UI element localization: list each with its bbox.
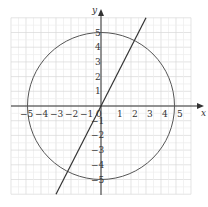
x-tick-label: 5 [177,109,183,119]
y-tick-label: 2 [95,72,101,82]
y-axis-label: y [91,5,98,15]
x-tick-label: 4 [162,109,168,119]
x-tick-label: −5 [20,109,34,119]
y-arrow-icon [98,9,104,16]
y-tick-label: −2 [91,130,104,140]
x-tick-label: −3 [50,109,64,119]
x-axis-label: x [201,108,206,118]
y-tick-label: 5 [95,28,101,38]
x-tick-label: −4 [35,109,49,119]
x-tick-label: 2 [132,109,138,119]
y-tick-label: −3 [91,145,105,155]
y-tick-label: 4 [95,42,101,52]
y-tick-label: 1 [95,86,101,96]
x-tick-label: 3 [147,109,153,119]
axes [11,9,204,195]
y-tick-label: −5 [91,175,105,185]
y-tick-label: −4 [91,160,105,170]
x-tick-label: −2 [65,109,78,119]
y-tick-label: 3 [95,57,101,67]
coordinate-diagram: x y −5−4−3−2−1012345 54321−1−2−3−4−5 [0,0,208,207]
y-tick-label: −1 [91,116,104,126]
x-tick-label: 1 [117,109,123,119]
